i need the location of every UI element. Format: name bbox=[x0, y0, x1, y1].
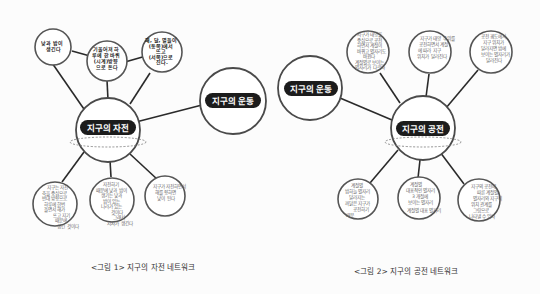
text-line: 달라진다 bbox=[486, 57, 503, 64]
figure-page: 낮과 밤이 생긴다 기울어져 하 루에 한 바퀴 (시계)방향 으로 돈다 해,… bbox=[0, 0, 540, 294]
edge-center2-top2 bbox=[426, 74, 429, 97]
f1-top-node-2-text: 기울어져 하 루에 한 바퀴 (시계)방향 으로 돈다 bbox=[92, 46, 122, 71]
text-line: 지구가 태양 주위를 bbox=[420, 35, 455, 42]
text-line: 까닭은 지구가 bbox=[345, 200, 371, 207]
text-line: 계절별 bbox=[410, 181, 422, 188]
text-line: 3 개절에 bbox=[412, 193, 428, 200]
text-line: 위치 관계를 bbox=[471, 201, 492, 208]
text-line: 나타낼 수 있다 bbox=[469, 213, 497, 220]
text-line: 시차가 생긴다 bbox=[107, 220, 133, 227]
f1-motion-label: 지구의 운동 bbox=[212, 96, 255, 106]
text-line: 지구가 자전하면서 bbox=[153, 183, 186, 190]
edge-center2-bottom2 bbox=[418, 160, 420, 178]
text-line: 낮이 된다 bbox=[157, 195, 175, 202]
text-line: 공전 궤도에서 bbox=[481, 33, 506, 40]
text-line: 별자리가 다르다 bbox=[355, 64, 385, 71]
text-line: 생긴 것이다 bbox=[57, 223, 79, 230]
text-line: 계절별 bbox=[351, 182, 363, 189]
text-line: 해를 향하면 bbox=[155, 189, 176, 196]
edge-center1-bottom1 bbox=[62, 152, 84, 182]
edge-center2-bottom3 bbox=[440, 152, 464, 184]
text-line: 때문 bbox=[346, 212, 354, 219]
text-line: 생긴다 bbox=[46, 46, 61, 53]
f2-motion-label: 지구의 운동 bbox=[290, 84, 333, 94]
figure1-nodes: 낮과 밤이 생긴다 기울어져 하 루에 한 바퀴 (시계)방향 으로 돈다 해,… bbox=[33, 29, 266, 230]
concept-map-diagram: 낮과 밤이 생긴다 기울어져 하 루에 한 바퀴 (시계)방향 으로 돈다 해,… bbox=[0, 0, 540, 294]
text-line: 에 따라 지구 bbox=[418, 47, 441, 54]
text-line: 계절별 대표 별자리 bbox=[407, 207, 442, 214]
text-line: 으로 돈다 bbox=[96, 64, 118, 71]
edge-center2-top3 bbox=[446, 70, 478, 108]
text-line: 지구 위치가 bbox=[483, 39, 505, 46]
f2-top-node-1-text: 지구가 태양을 중심으로 공전 하면서 계절이 바뀌고 별자리도 바뀐다 계절별… bbox=[355, 31, 388, 71]
edge-center1-motion bbox=[136, 105, 202, 122]
text-line: 지구의 공전에 bbox=[471, 183, 496, 190]
figure2-nodes: 지구의 운동 지구가 태양을 중심으로 공전 하면서 계절이 바뀌고 별자리도 … bbox=[278, 31, 512, 221]
edge-center1-top1 bbox=[50, 60, 86, 112]
text-line: 대표적인 별자리 bbox=[406, 187, 435, 194]
edge-center1-top2 bbox=[107, 80, 108, 100]
text-line: 보이는 별자리가 bbox=[481, 51, 511, 58]
f1-center-label: 지구의 자전 bbox=[87, 123, 130, 133]
edge-center2-top1 bbox=[380, 73, 400, 103]
figure1-caption: <그림 1> 지구의 자전 네트워크 bbox=[91, 262, 195, 272]
text-line: 따른 계절별 bbox=[477, 189, 498, 196]
text-line: 달라지는 bbox=[349, 194, 365, 201]
text-line: 진다. bbox=[156, 59, 168, 66]
edge-center1-bottom3 bbox=[130, 154, 158, 180]
text-line: 그림으로 bbox=[473, 207, 489, 213]
figure2-caption: <그림 2> 지구의 공전 네트워크 bbox=[354, 266, 458, 276]
edge-motion2-center2 bbox=[340, 98, 392, 120]
text-line: 보이는 별자리 bbox=[408, 199, 433, 206]
text-line: 위치가 달라진다 bbox=[417, 53, 447, 60]
text-line: 밤하늘 별자리 bbox=[345, 188, 370, 195]
text-line: 중심으로 공전 bbox=[357, 37, 382, 43]
edge-center1-top3 bbox=[130, 73, 150, 104]
text-line: 공전하기 bbox=[353, 206, 369, 213]
edge-center2-bottom1 bbox=[370, 150, 398, 183]
f2-center-label: 지구의 공전 bbox=[402, 124, 445, 134]
text-line: 공전하면서 계절 bbox=[419, 41, 448, 48]
text-line: 달라지면 밤에 bbox=[481, 45, 506, 52]
text-line: 별자리와 지구의 bbox=[473, 195, 502, 202]
